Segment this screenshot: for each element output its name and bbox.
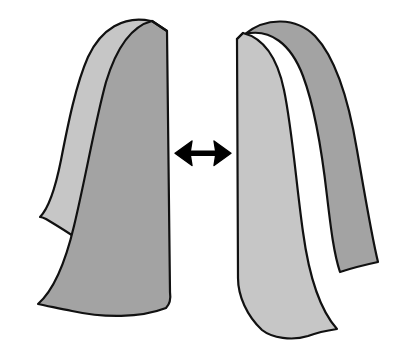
- figure-canvas: [0, 0, 407, 361]
- curved-sheets-illustration: [0, 0, 407, 361]
- arrow-shaft: [188, 151, 219, 157]
